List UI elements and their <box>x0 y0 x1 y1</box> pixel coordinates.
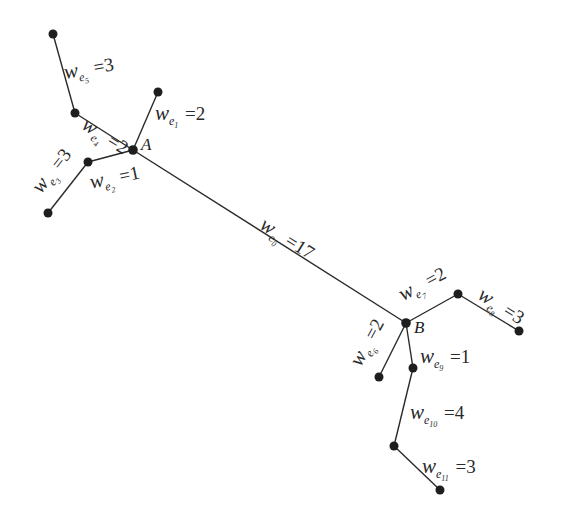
node-e2-junction <box>84 158 93 167</box>
weight-label-e9: we9 =1 <box>420 346 470 367</box>
node-b <box>401 318 411 328</box>
node-e1-tip <box>154 88 163 97</box>
node-e3-tip <box>44 209 53 218</box>
vertex-label-a: A <box>141 135 151 155</box>
node-e5-tip <box>49 30 58 39</box>
weight-label-e10: we10 =4 <box>410 402 464 423</box>
node-e11-tip <box>436 486 445 495</box>
node-e7-junction <box>454 290 463 299</box>
weight-label-e11: we11 =3 <box>422 456 476 477</box>
node-e4-junction <box>71 109 80 118</box>
node-a <box>128 145 138 155</box>
vertex-label-b: B <box>414 318 424 338</box>
node-e9-junction <box>409 364 418 373</box>
nodes <box>44 30 524 495</box>
weight-label-e1: we1 =2 <box>155 103 205 124</box>
edge-e9 <box>406 323 413 368</box>
node-e10-junction <box>390 442 399 451</box>
node-e6-tip <box>375 373 384 382</box>
